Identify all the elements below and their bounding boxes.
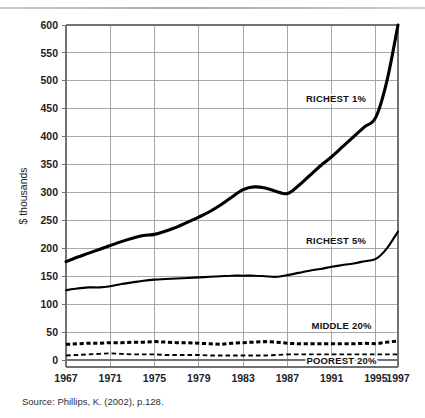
y-tick-label: 250 xyxy=(40,214,58,226)
series-label-richest-1: RICHEST 1% xyxy=(306,93,366,104)
y-tick-label: 400 xyxy=(40,130,58,142)
data-series xyxy=(66,25,398,356)
chart-container: 050100150200250300350400450500550600 196… xyxy=(0,0,425,418)
x-tick-label: 1975 xyxy=(143,372,167,384)
y-tick-label: 350 xyxy=(40,158,58,170)
y-axis-tick-labels: 050100150200250300350400450500550600 xyxy=(40,19,58,366)
x-axis-tick-labels: 196719711975197919831987199119951997 xyxy=(54,372,410,384)
x-tick-label: 1991 xyxy=(320,372,344,384)
series-inline-labels: RICHEST 1%RICHEST 1%RICHEST 5%RICHEST 5%… xyxy=(306,93,377,366)
figure-page: 050100150200250300350400450500550600 196… xyxy=(0,0,425,418)
x-tick-label: 1997 xyxy=(386,372,410,384)
series-line-richest-1 xyxy=(66,25,398,262)
series-label-poorest-20: POOREST 20% xyxy=(306,355,377,366)
y-tick-label: 500 xyxy=(40,74,58,86)
income-distribution-line-chart: 050100150200250300350400450500550600 196… xyxy=(0,0,425,392)
y-axis-title: $ thousands xyxy=(17,167,29,224)
x-tick-label: 1987 xyxy=(276,372,300,384)
source-note: Source: Phillips, K. (2002), p.128. xyxy=(22,396,164,407)
y-tick-label: 300 xyxy=(40,186,58,198)
y-tick-label: 200 xyxy=(40,242,58,254)
series-label-middle-20: MIDDLE 20% xyxy=(312,320,372,331)
axis-tick-marks xyxy=(62,25,66,360)
y-tick-label: 0 xyxy=(52,354,58,366)
y-tick-label: 450 xyxy=(40,102,58,114)
series-line-middle-20 xyxy=(66,341,398,344)
y-tick-label: 50 xyxy=(46,326,58,338)
series-label-richest-5: RICHEST 5% xyxy=(306,235,366,246)
x-tick-label: 1967 xyxy=(54,372,78,384)
x-tick-label: 1971 xyxy=(99,372,123,384)
y-tick-label: 600 xyxy=(40,19,58,31)
x-tick-label: 1995 xyxy=(364,372,388,384)
y-tick-label: 150 xyxy=(40,270,58,282)
y-tick-label: 100 xyxy=(40,298,58,310)
y-tick-label: 550 xyxy=(40,47,58,59)
x-tick-label: 1979 xyxy=(187,372,211,384)
x-tick-label: 1983 xyxy=(231,372,255,384)
